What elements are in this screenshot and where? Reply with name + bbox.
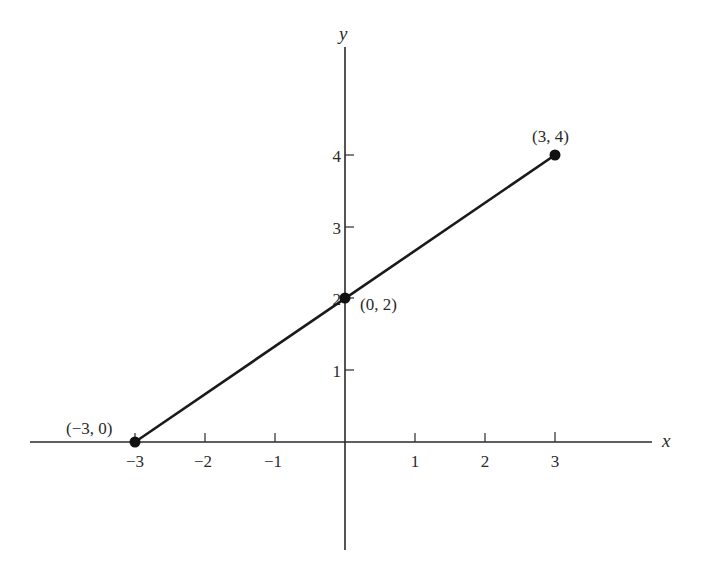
x-tick-label: −2 xyxy=(194,452,212,471)
y-axis-label: y xyxy=(337,23,348,44)
x-tick-label: 3 xyxy=(551,452,560,471)
x-tick-label: 2 xyxy=(481,452,490,471)
chart-svg: x y −3 −2 −1 1 2 3 1 xyxy=(0,0,705,582)
point-label-3-4: (3, 4) xyxy=(532,127,569,146)
x-tick-label: 1 xyxy=(411,452,420,471)
coordinate-plane-figure: x y −3 −2 −1 1 2 3 1 xyxy=(0,0,705,582)
x-tick-label: −3 xyxy=(126,452,144,471)
y-tick-label: 1 xyxy=(333,362,342,381)
x-tick-labels: −3 −2 −1 1 2 3 xyxy=(126,452,559,471)
x-axis-label: x xyxy=(661,430,671,451)
x-tick-label: −1 xyxy=(264,452,282,471)
point-marker-0-2 xyxy=(340,293,351,304)
point-label-neg3-0: (−3, 0) xyxy=(66,419,112,438)
point-label-0-2: (0, 2) xyxy=(360,295,397,314)
y-tick-label: 3 xyxy=(333,219,342,238)
point-marker-neg3-0 xyxy=(130,437,141,448)
y-ticks xyxy=(345,155,354,370)
y-tick-label: 4 xyxy=(333,147,342,166)
y-tick-labels: 1 2 3 4 xyxy=(333,147,342,381)
point-marker-3-4 xyxy=(550,150,561,161)
